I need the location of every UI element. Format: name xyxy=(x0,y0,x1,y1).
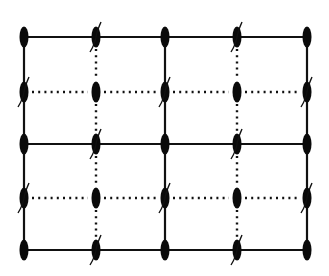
lattice-node xyxy=(90,129,101,159)
node-ellipse-icon xyxy=(161,240,170,261)
lattice-node xyxy=(161,27,170,48)
lattice-node xyxy=(303,27,312,48)
node-ellipse-icon xyxy=(303,134,312,155)
lattice-node xyxy=(20,240,29,261)
node-ellipse-icon xyxy=(303,27,312,48)
node-ellipse-icon xyxy=(303,240,312,261)
lattice-node xyxy=(303,134,312,155)
lattice-node xyxy=(233,188,242,209)
lattice-node xyxy=(161,134,170,155)
lattice-node xyxy=(92,82,101,103)
node-ellipse-icon xyxy=(161,134,170,155)
node-ellipse-icon xyxy=(92,82,101,103)
lattice-node xyxy=(20,134,29,155)
lattice-node xyxy=(92,188,101,209)
lattice-node xyxy=(90,235,101,265)
lattice-node xyxy=(161,240,170,261)
lattice-node xyxy=(231,235,242,265)
node-ellipse-icon xyxy=(233,188,242,209)
node-ellipse-icon xyxy=(233,82,242,103)
node-ellipse-icon xyxy=(92,188,101,209)
lattice-node xyxy=(231,22,242,52)
node-ellipse-icon xyxy=(20,240,29,261)
lattice-node xyxy=(231,129,242,159)
lattice-node xyxy=(90,22,101,52)
node-ellipse-icon xyxy=(20,27,29,48)
node-ellipse-icon xyxy=(20,134,29,155)
node-ellipse-icon xyxy=(161,27,170,48)
lattice-node xyxy=(20,27,29,48)
lattice-diagram xyxy=(0,0,329,276)
lattice-node xyxy=(303,240,312,261)
lattice-node xyxy=(233,82,242,103)
